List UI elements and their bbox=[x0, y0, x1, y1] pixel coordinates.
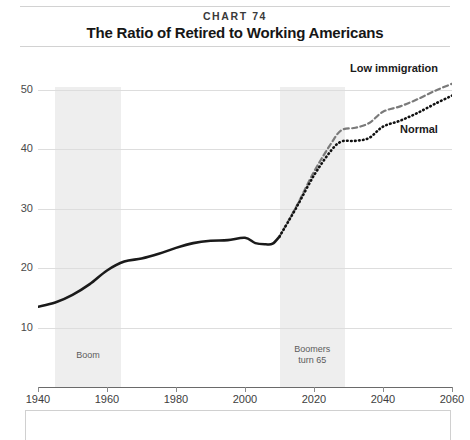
x-tick-2000 bbox=[245, 387, 246, 392]
x-tick-2040 bbox=[383, 387, 384, 392]
chart-number: CHART 74 bbox=[0, 10, 470, 22]
x-tick-label-2000: 2000 bbox=[225, 393, 265, 405]
x-tick-1940 bbox=[38, 387, 39, 392]
y-tick-label-30: 30 bbox=[7, 202, 33, 214]
top-divider bbox=[20, 6, 450, 7]
page-title: The Ratio of Retired to Working American… bbox=[0, 24, 470, 41]
x-tick-label-2060: 2060 bbox=[432, 393, 470, 405]
x-tick-label-2020: 2020 bbox=[294, 393, 334, 405]
y-tick-label-40: 40 bbox=[7, 142, 33, 154]
series-label-low-immigration: Low immigration bbox=[350, 62, 438, 74]
x-tick-2060 bbox=[452, 387, 453, 392]
x-tick-label-1960: 1960 bbox=[87, 393, 127, 405]
series-line-low-immigration bbox=[280, 84, 453, 237]
x-tick-label-1940: 1940 bbox=[18, 393, 58, 405]
series-label-normal: Normal bbox=[400, 123, 438, 135]
y-tick-label-50: 50 bbox=[7, 83, 33, 95]
y-tick-label-10: 10 bbox=[7, 321, 33, 333]
series-layer bbox=[38, 60, 452, 387]
band-label-boom: Boom bbox=[55, 350, 121, 361]
x-tick-label-1980: 1980 bbox=[156, 393, 196, 405]
band-label-boomers-turn-65: Boomers turn 65 bbox=[280, 344, 346, 366]
x-tick-label-2040: 2040 bbox=[363, 393, 403, 405]
series-line-historical bbox=[38, 237, 280, 307]
chart-plot-area: 1020304050 1940196019802000202020402060 … bbox=[38, 60, 452, 387]
y-tick-label-20: 20 bbox=[7, 261, 33, 273]
x-tick-1980 bbox=[176, 387, 177, 392]
footer-box bbox=[25, 410, 451, 440]
x-tick-2020 bbox=[314, 387, 315, 392]
title-divider bbox=[20, 46, 450, 47]
x-tick-1960 bbox=[107, 387, 108, 392]
series-line-normal bbox=[280, 96, 453, 237]
